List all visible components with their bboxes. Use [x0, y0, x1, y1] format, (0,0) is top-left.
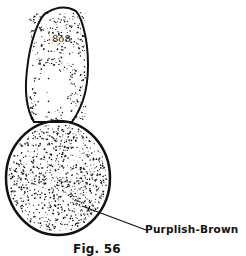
cephalothorax-stipple — [29, 11, 86, 120]
figure-caption: Fig. 56 — [73, 242, 121, 256]
abdomen-stipple — [9, 125, 108, 231]
callout-label-purplish-brown: Purplish-Brown — [145, 223, 239, 235]
eye-marks: 8ö8 — [52, 33, 71, 44]
callout-leader-line — [82, 206, 146, 230]
